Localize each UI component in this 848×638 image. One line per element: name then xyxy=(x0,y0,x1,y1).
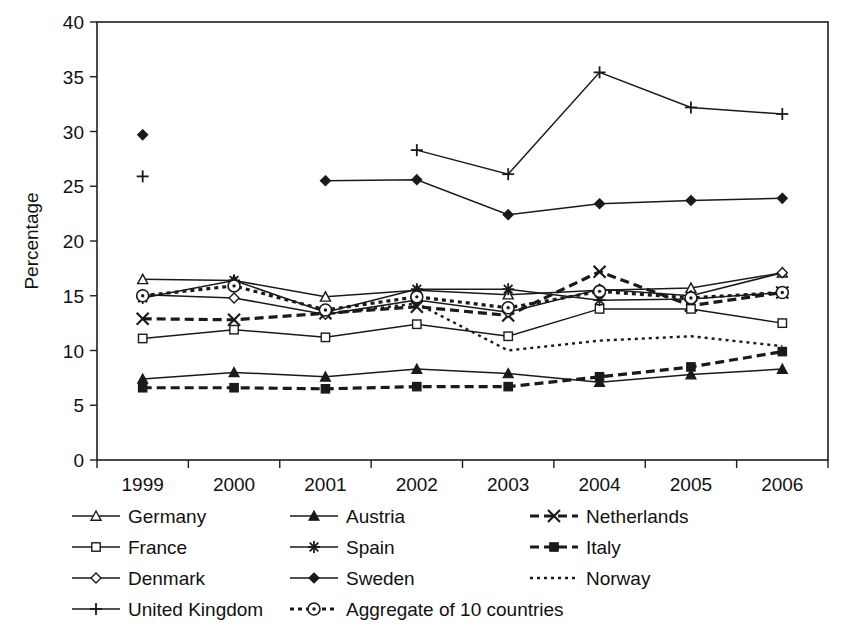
data-point-square-open xyxy=(138,334,146,342)
data-point-circle-dot xyxy=(685,292,697,304)
data-point-square-filled xyxy=(504,382,512,390)
y-tick-label: 0 xyxy=(73,450,84,471)
data-point-circle-dot xyxy=(228,280,240,292)
data-point-square-filled xyxy=(230,384,238,392)
data-point-circle-dot xyxy=(308,603,320,615)
x-tick-label: 2005 xyxy=(670,474,712,495)
data-point-square-filled xyxy=(595,373,603,381)
y-axis-title: Percentage xyxy=(21,192,42,289)
legend-label: Sweden xyxy=(346,568,415,589)
data-point-circle-dot xyxy=(411,291,423,303)
y-tick-label: 5 xyxy=(73,395,84,416)
percentage-line-chart: Percentage 0510152025303540 199920002001… xyxy=(0,0,848,638)
data-point-square-filled xyxy=(550,543,558,551)
data-point-square-open xyxy=(413,320,421,328)
data-point-circle-dot xyxy=(137,290,149,302)
y-axis-label-text: Percentage xyxy=(21,192,42,289)
legend-label: Denmark xyxy=(128,568,206,589)
data-point-square-filled xyxy=(413,382,421,390)
data-point-square-filled xyxy=(321,385,329,393)
chart-figure: Percentage 0510152025303540 199920002001… xyxy=(0,0,848,638)
x-tick-label: 2003 xyxy=(487,474,529,495)
data-point-square-open xyxy=(778,319,786,327)
y-tick-label: 40 xyxy=(63,12,84,33)
y-tick-label: 20 xyxy=(63,231,84,252)
x-tick-label: 2006 xyxy=(761,474,803,495)
x-tick-label: 1999 xyxy=(122,474,164,495)
legend-label: Italy xyxy=(586,537,621,558)
legend-label: Austria xyxy=(346,506,406,527)
y-tick-label: 35 xyxy=(63,67,84,88)
y-tick-label: 30 xyxy=(63,122,84,143)
legend-label: Aggregate of 10 countries xyxy=(346,599,564,620)
legend-label: Spain xyxy=(346,537,395,558)
data-point-square-filled xyxy=(778,347,786,355)
data-point-square-open xyxy=(321,333,329,341)
x-tick-label: 2004 xyxy=(578,474,621,495)
data-point-square-filled xyxy=(687,363,695,371)
y-tick-label: 25 xyxy=(63,176,84,197)
data-point-circle-dot xyxy=(776,286,788,298)
y-tick-label: 15 xyxy=(63,286,84,307)
data-point-circle-dot xyxy=(502,302,514,314)
data-point-square-open xyxy=(92,543,100,551)
legend-label: Norway xyxy=(586,568,651,589)
x-tick-label: 2001 xyxy=(304,474,346,495)
data-point-square-filled xyxy=(138,384,146,392)
legend-label: Germany xyxy=(128,506,207,527)
data-point-circle-dot xyxy=(594,285,606,297)
data-point-square-open xyxy=(504,332,512,340)
legend-label: France xyxy=(128,537,187,558)
data-point-asterisk xyxy=(502,283,514,295)
legend-label: Netherlands xyxy=(586,506,688,527)
x-tick-label: 2002 xyxy=(396,474,438,495)
legend-label: United Kingdom xyxy=(128,599,263,620)
x-tick-label: 2000 xyxy=(213,474,255,495)
data-point-square-open xyxy=(687,305,695,313)
data-point-asterisk xyxy=(308,541,320,553)
data-point-square-open xyxy=(230,325,238,333)
y-tick-label: 10 xyxy=(63,341,84,362)
data-point-circle-dot xyxy=(319,304,331,316)
